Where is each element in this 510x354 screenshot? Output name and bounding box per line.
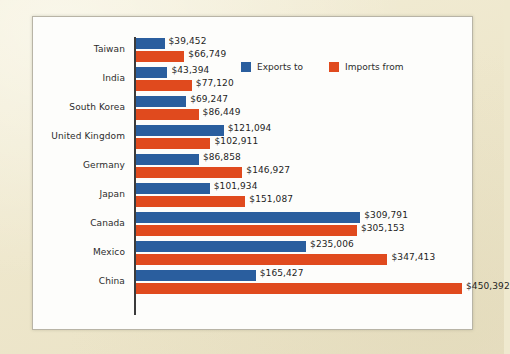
bar-exports[interactable]: $43,394 [136,67,167,78]
bar-value-label: $305,153 [357,223,405,233]
bar-value-label: $165,427 [256,268,304,278]
bar-value-label: $235,006 [306,239,354,249]
category-group: South Korea$69,247$86,449 [33,95,472,124]
legend-label: Exports to [257,62,303,72]
bar-imports[interactable]: $305,153 [136,225,357,236]
bar-value-label: $151,087 [245,194,293,204]
bar-value-label: $146,927 [242,165,290,175]
bar-exports[interactable]: $309,791 [136,212,360,223]
category-group: United Kingdom$121,094$102,911 [33,124,472,153]
category-label: China [0,276,125,286]
category-label: Taiwan [0,44,125,54]
category-group: China$165,427$450,392 [33,269,472,298]
bar-value-label: $66,749 [184,49,226,59]
bar-value-label: $121,094 [224,123,272,133]
plot-area: Taiwan$39,452$66,749India$43,394$77,120S… [33,17,472,329]
bar-exports[interactable]: $39,452 [136,38,165,49]
bar-imports[interactable]: $450,392 [136,283,462,294]
chart-panel: Taiwan$39,452$66,749India$43,394$77,120S… [32,16,473,330]
bar-value-label: $69,247 [186,94,228,104]
legend-swatch-icon [241,62,251,72]
bar-value-label: $450,392 [462,281,510,291]
chart-legend: Exports toImports from [241,62,403,72]
category-group: Japan$101,934$151,087 [33,182,472,211]
category-label: India [0,73,125,83]
bar-imports[interactable]: $77,120 [136,80,192,91]
category-label: Japan [0,189,125,199]
category-label: United Kingdom [0,131,125,141]
bar-imports[interactable]: $146,927 [136,167,242,178]
bar-value-label: $39,452 [165,36,207,46]
category-label: South Korea [0,102,125,112]
category-group: Germany$86,858$146,927 [33,153,472,182]
bar-exports[interactable]: $69,247 [136,96,186,107]
bar-imports[interactable]: $102,911 [136,138,210,149]
category-group: Mexico$235,006$347,413 [33,240,472,269]
bar-exports[interactable]: $86,858 [136,154,199,165]
bar-imports[interactable]: $66,749 [136,51,184,62]
bar-value-label: $101,934 [210,181,258,191]
bar-value-label: $102,911 [210,136,258,146]
category-label: Mexico [0,247,125,257]
bar-exports[interactable]: $101,934 [136,183,210,194]
bar-value-label: $77,120 [192,78,234,88]
legend-item-imports[interactable]: Imports from [329,62,403,72]
bar-exports[interactable]: $165,427 [136,270,256,281]
category-label: Canada [0,218,125,228]
bar-imports[interactable]: $347,413 [136,254,387,265]
bar-value-label: $347,413 [387,252,435,262]
bar-imports[interactable]: $86,449 [136,109,199,120]
bar-exports[interactable]: $121,094 [136,125,224,136]
bar-value-label: $43,394 [167,65,209,75]
bar-exports[interactable]: $235,006 [136,241,306,252]
category-label: Germany [0,160,125,170]
bar-value-label: $86,449 [199,107,241,117]
bar-imports[interactable]: $151,087 [136,196,245,207]
bar-value-label: $86,858 [199,152,241,162]
legend-swatch-icon [329,62,339,72]
legend-item-exports[interactable]: Exports to [241,62,303,72]
category-group: Canada$309,791$305,153 [33,211,472,240]
bar-value-label: $309,791 [360,210,408,220]
legend-label: Imports from [345,62,403,72]
